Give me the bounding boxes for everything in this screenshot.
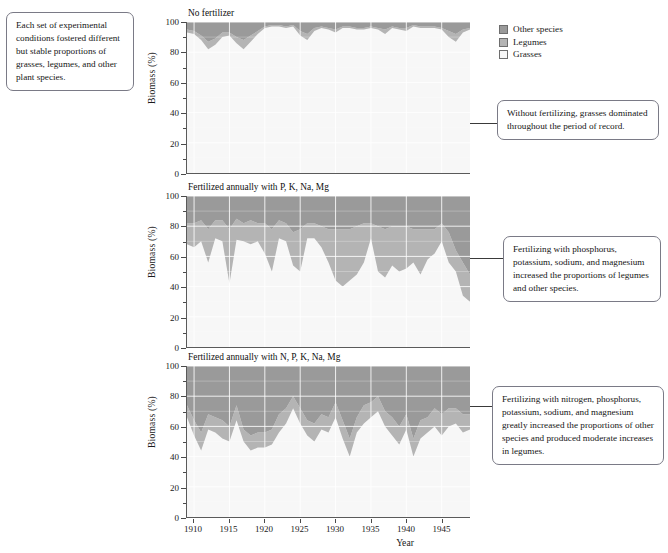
- y-tick-minor: [183, 242, 186, 243]
- y-tick-minor: [183, 333, 186, 334]
- y-tick-label: 80: [157, 221, 179, 231]
- y-tick-major: [181, 22, 186, 23]
- x-tick-label: 1935: [362, 524, 380, 534]
- y-tick-major: [181, 488, 186, 489]
- y-tick-label: 0: [157, 513, 179, 523]
- y-tick-label: 60: [157, 422, 179, 432]
- y-tick-minor: [183, 412, 186, 413]
- y-tick-label: 60: [157, 78, 179, 88]
- y-tick-label: 60: [157, 252, 179, 262]
- y-axis-label-2: Biomass (%): [146, 396, 157, 448]
- y-tick-label: 0: [157, 169, 179, 179]
- x-tick-label: 1930: [326, 524, 344, 534]
- y-tick-major: [181, 457, 186, 458]
- y-axis-label-0: Biomass (%): [146, 52, 157, 104]
- y-tick-major: [181, 318, 186, 319]
- y-tick-label: 40: [157, 452, 179, 462]
- y-tick-major: [181, 196, 186, 197]
- x-tick-label: 1945: [433, 524, 451, 534]
- y-tick-major: [181, 366, 186, 367]
- y-tick-major: [181, 113, 186, 114]
- y-tick-label: 40: [157, 282, 179, 292]
- y-tick-major: [181, 174, 186, 175]
- y-tick-label: 100: [157, 191, 179, 201]
- x-tick: [300, 519, 301, 523]
- note-intro-text: Each set of experimental conditions fost…: [16, 20, 120, 82]
- chart-panel-no-fertilizer: No fertilizer: [186, 22, 470, 174]
- y-tick-minor: [183, 442, 186, 443]
- x-tick: [229, 519, 230, 523]
- y-tick-label: 20: [157, 313, 179, 323]
- x-tick-label: 1920: [255, 524, 273, 534]
- y-tick-minor: [183, 159, 186, 160]
- legend-item-grasses: Grasses: [499, 50, 563, 59]
- y-tick-minor: [183, 68, 186, 69]
- x-tick-label: 1915: [220, 524, 238, 534]
- y-tick-label: 100: [157, 17, 179, 27]
- chart-panel-npkna-mg: Fertilized annually with N, P, K, Na, Mg: [186, 366, 470, 518]
- y-tick-major: [181, 226, 186, 227]
- legend-label-grasses: Grasses: [513, 50, 542, 59]
- y-tick-major: [181, 52, 186, 53]
- legend-item-other-species: Other species: [499, 25, 563, 34]
- y-tick-minor: [183, 472, 186, 473]
- callout-leader-panel2: [466, 258, 504, 259]
- x-tick: [406, 519, 407, 523]
- x-tick-label: 1940: [397, 524, 415, 534]
- y-tick-label: 0: [157, 343, 179, 353]
- y-tick-label: 20: [157, 139, 179, 149]
- legend-label-other-species: Other species: [513, 25, 563, 34]
- y-tick-minor: [183, 381, 186, 382]
- y-tick-major: [181, 83, 186, 84]
- legend-item-legumes: Legumes: [499, 38, 563, 47]
- y-axis-label-1: Biomass (%): [146, 226, 157, 278]
- chart-panel-pkna-mg: Fertilized annually with P, K, Na, Mg: [186, 196, 470, 348]
- note-intro: Each set of experimental conditions fost…: [6, 12, 134, 91]
- x-tick: [264, 519, 265, 523]
- y-tick-minor: [183, 128, 186, 129]
- y-tick-label: 80: [157, 47, 179, 57]
- x-tick: [193, 519, 194, 523]
- y-tick-label: 100: [157, 361, 179, 371]
- y-tick-major: [181, 427, 186, 428]
- y-tick-major: [181, 257, 186, 258]
- y-tick-minor: [183, 503, 186, 504]
- panel-title-0: No fertilizer: [188, 8, 234, 18]
- x-tick-label: 1910: [184, 524, 202, 534]
- note-panel2: Fertilizing with phosphorus, potassium, …: [503, 236, 661, 302]
- x-tick: [371, 519, 372, 523]
- y-tick-minor: [183, 37, 186, 38]
- legend-swatch-other-species: [499, 25, 508, 34]
- legend-swatch-legumes: [499, 38, 508, 47]
- plot-area-2: [186, 366, 470, 518]
- x-tick: [335, 519, 336, 523]
- y-tick-minor: [183, 272, 186, 273]
- note-panel2-text: Fertilizing with phosphorus, potassium, …: [513, 244, 649, 293]
- y-tick-minor: [183, 211, 186, 212]
- panel-title-2: Fertilized annually with N, P, K, Na, Mg: [188, 352, 340, 362]
- note-panel1-text: Without fertilizing, grasses dominated t…: [507, 108, 647, 131]
- note-panel3: Fertilizing with nitrogen, phosphorus, p…: [492, 386, 664, 465]
- legend-label-legumes: Legumes: [513, 38, 547, 47]
- y-tick-minor: [183, 98, 186, 99]
- legend-swatch-grasses: [499, 50, 508, 59]
- y-tick-label: 80: [157, 391, 179, 401]
- y-tick-major: [181, 518, 186, 519]
- y-tick-major: [181, 144, 186, 145]
- y-tick-major: [181, 396, 186, 397]
- plot-area-0: [186, 22, 470, 174]
- x-tick-label: 1925: [291, 524, 309, 534]
- y-tick-minor: [183, 302, 186, 303]
- x-axis-label: Year: [0, 537, 668, 548]
- panel-title-1: Fertilized annually with P, K, Na, Mg: [188, 182, 329, 192]
- plot-area-1: [186, 196, 470, 348]
- note-panel1: Without fertilizing, grasses dominated t…: [497, 100, 659, 140]
- y-tick-label: 20: [157, 483, 179, 493]
- y-tick-label: 40: [157, 108, 179, 118]
- chart-legend: Other species Legumes Grasses: [499, 25, 563, 63]
- x-tick: [442, 519, 443, 523]
- note-panel3-text: Fertilizing with nitrogen, phosphorus, p…: [502, 394, 654, 456]
- y-tick-major: [181, 287, 186, 288]
- y-tick-major: [181, 348, 186, 349]
